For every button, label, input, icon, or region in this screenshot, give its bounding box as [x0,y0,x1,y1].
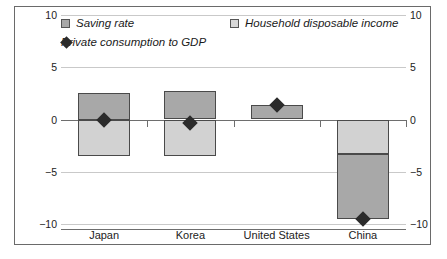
x-tick-2 [320,120,321,127]
gridline--10 [61,224,406,225]
y-tick-right-5: 5 [410,61,416,73]
y-tick-left--10: −10 [39,218,57,230]
y-tick-left-10: 10 [45,9,57,21]
x-tick-1 [234,120,235,127]
x-label-korea: Korea [176,229,205,241]
x-label-united-states: United States [244,229,310,241]
x-label-japan: Japan [89,229,119,241]
gridline-5 [61,67,406,68]
bar-saving-china[interactable] [337,154,389,219]
chart-frame: Saving rate Household disposable income … [14,6,431,245]
y-tick-left-5: 5 [51,61,57,73]
plot-area [61,15,406,224]
y-tick-left--5: −5 [45,166,57,178]
y-axis-right: 1050−5−10 [410,15,440,224]
y-tick-right--10: −10 [410,218,428,230]
y-axis-left: 1050−5−10 [29,15,57,224]
x-axis-labels: JapanKoreaUnited StatesChina [61,229,406,247]
y-tick-left-0: 0 [51,114,57,126]
y-tick-right-10: 10 [410,9,422,21]
x-label-china: China [349,229,378,241]
y-tick-right--5: −5 [410,166,422,178]
x-tick-3 [406,120,407,127]
bar-hdi-china[interactable] [337,120,389,154]
x-tick-0 [147,120,148,127]
gridline-10 [61,15,406,16]
y-tick-right-0: 0 [410,114,416,126]
